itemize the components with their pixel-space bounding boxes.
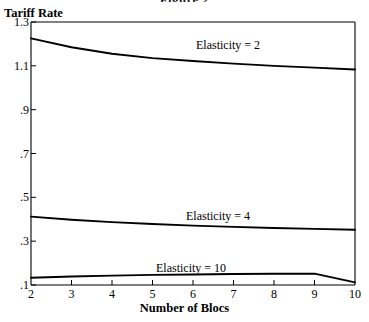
series-label-elasticity-4: Elasticity = 4 [186,210,250,222]
figure-container: Figure 2 Tariff Rate 1.31.1.9.7.5.3.1 23… [0,0,369,322]
x-tick-label: 8 [261,288,287,300]
x-tick-label: 2 [18,288,44,300]
x-tick-label: 3 [59,288,85,300]
series-label-elasticity-10: Elasticity = 10 [156,262,226,274]
x-tick-label: 10 [342,288,368,300]
x-tick-label: 4 [99,288,125,300]
x-tick-label: 6 [180,288,206,300]
x-tick-label: 5 [140,288,166,300]
x-tick-label: 7 [221,288,247,300]
x-tick-label: 9 [302,288,328,300]
series-label-elasticity-2: Elasticity = 2 [196,39,260,51]
x-axis-title: Number of Blocs [0,302,369,315]
